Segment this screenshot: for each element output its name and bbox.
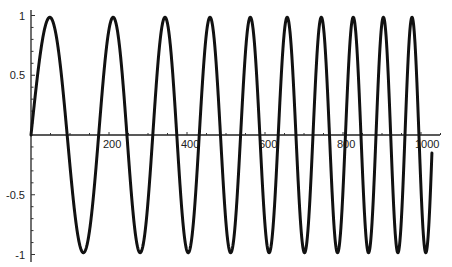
y-tick-label: 0.5 bbox=[10, 69, 25, 81]
y-tick-label: -0.5 bbox=[6, 189, 25, 201]
x-tick-label: 200 bbox=[103, 138, 121, 150]
chirp-line-chart: 200400600800100010.5-0.5-1 bbox=[0, 0, 452, 267]
y-tick-label: -1 bbox=[15, 249, 25, 261]
y-tick-label: 1 bbox=[19, 10, 25, 22]
x-tick-label: 400 bbox=[181, 138, 199, 150]
